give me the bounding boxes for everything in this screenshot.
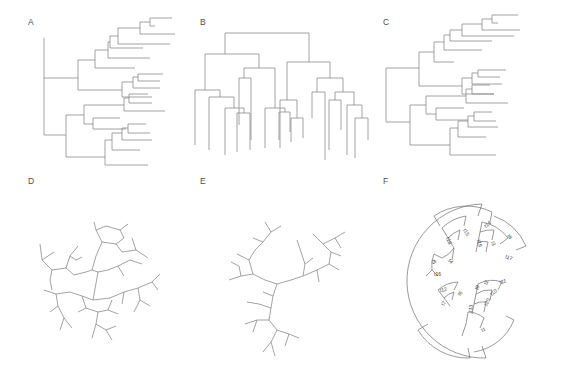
tree-f-tip-labels: t18 t15 t14 t19 t3 t8 t17 t4 t5 t16 t12 … <box>431 219 514 332</box>
panel-f: F <box>374 172 561 389</box>
tree-c-branches <box>386 15 520 155</box>
tree-e-branches <box>229 222 345 356</box>
panel-b: B <box>187 0 374 172</box>
tip-label: t6 <box>456 289 463 296</box>
panel-label-f: F <box>383 177 388 186</box>
panel-label-d: D <box>28 177 34 186</box>
panel-a: A <box>0 0 187 172</box>
tip-label: t9 <box>473 284 480 290</box>
panel-e: E <box>187 172 374 389</box>
panel-c: C <box>374 0 561 172</box>
tip-label: t15 <box>462 227 471 236</box>
tip-label: t1 <box>480 326 486 333</box>
panel-label-b: B <box>200 18 206 27</box>
panel-label-c: C <box>383 18 389 27</box>
tree-b-branches <box>195 33 368 160</box>
panel-d: D <box>0 172 187 389</box>
tip-label: t8 <box>506 233 513 240</box>
tree-c-rectangular <box>374 0 561 172</box>
tip-label: t11 <box>499 277 507 285</box>
tip-label: t12 <box>439 286 447 293</box>
tip-label: t3 <box>490 240 497 246</box>
tip-label: t10 <box>489 287 498 296</box>
tree-e-unrooted-daylight <box>187 172 374 389</box>
tree-d-unrooted <box>0 172 187 389</box>
panel-label-a: A <box>28 18 34 27</box>
tip-label: t4 <box>447 257 454 264</box>
tip-label: t18 <box>445 236 453 245</box>
tree-a-branches <box>44 18 175 165</box>
tip-label: t14 <box>483 219 492 228</box>
tip-label: t5 <box>431 259 438 264</box>
tip-label: t13 <box>467 304 474 312</box>
tree-d-branches <box>40 222 160 340</box>
tip-label: t17 <box>505 253 514 261</box>
tree-b-rectangular-down <box>187 0 374 172</box>
tip-label: t16 <box>434 271 441 277</box>
tree-f-circular-fan: t18 t15 t14 t19 t3 t8 t17 t4 t5 t16 t12 … <box>374 172 561 389</box>
figure-canvas: A <box>0 0 561 389</box>
panel-label-e: E <box>200 177 206 186</box>
tip-label: t2 <box>482 279 489 285</box>
tip-label: t20 <box>483 297 492 306</box>
